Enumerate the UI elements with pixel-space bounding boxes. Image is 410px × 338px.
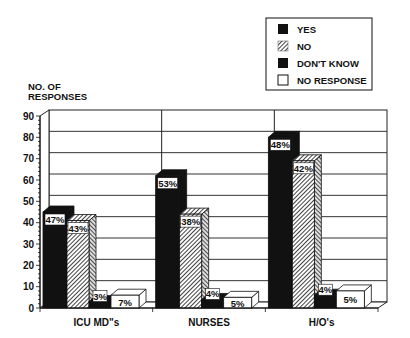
- bar-no-1: 38%: [180, 208, 209, 308]
- bar-no-0: 43%: [67, 215, 96, 308]
- legend-label-yes: YES: [297, 24, 316, 35]
- data-label: 5%: [231, 298, 245, 309]
- y-tick-label: 60: [23, 175, 35, 186]
- bar-front: [268, 137, 292, 308]
- x-axis: ICU MD"sNURSESH/O's: [40, 308, 378, 328]
- legend: YES NO DON'T KNOW NO RESPONSE: [266, 18, 372, 90]
- y-tick-label: 0: [28, 303, 34, 314]
- legend-item-yes: YES: [278, 24, 316, 35]
- category-label: H/O's: [309, 317, 335, 328]
- y-tick-label: 10: [23, 281, 35, 292]
- bar-no-2: 42%: [292, 155, 321, 308]
- legend-label-dont-know: DON'T KNOW: [297, 58, 359, 69]
- category-label: ICU MD"s: [73, 317, 119, 328]
- data-label: 42%: [294, 163, 314, 174]
- bar-front: [43, 212, 67, 308]
- data-label: 5%: [343, 294, 357, 305]
- data-label: 53%: [158, 178, 178, 189]
- bar-front: [202, 299, 224, 308]
- bar-front: [89, 302, 111, 308]
- y-tick-label: 70: [23, 153, 35, 164]
- data-label: 47%: [45, 214, 65, 225]
- legend-swatch-yes: [278, 24, 288, 34]
- legend-swatch-no-response: [278, 75, 288, 85]
- data-label: 48%: [271, 139, 291, 150]
- data-label: 43%: [68, 223, 88, 234]
- bar-no-response-2: 5%: [336, 285, 371, 308]
- back-wall: [49, 110, 387, 302]
- data-label: 4%: [318, 284, 332, 295]
- y-tick-label: 30: [23, 239, 35, 250]
- data-label: 38%: [181, 216, 201, 227]
- bar-no-response-1: 5%: [224, 291, 259, 308]
- y-tick-label: 20: [23, 260, 35, 271]
- data-label: 3%: [93, 291, 107, 302]
- legend-label-no: NO: [297, 41, 311, 52]
- category-label: NURSES: [188, 317, 230, 328]
- legend-swatch-no: [278, 41, 288, 51]
- y-axis-label-line-2: RESPONSES: [28, 91, 87, 102]
- bar-front: [292, 161, 314, 308]
- bar-chart: NO. OF RESPONSES 0102030405060708090 47%…: [0, 0, 410, 338]
- bar-front: [156, 176, 180, 308]
- legend-label-no-response: NO RESPONSE: [297, 75, 367, 86]
- legend-swatch-dont-know: [278, 58, 288, 68]
- bar-front: [314, 295, 336, 308]
- y-tick-label: 40: [23, 217, 35, 228]
- bar-no-response-0: 7%: [111, 289, 146, 308]
- y-tick-label: 80: [23, 132, 35, 143]
- y-tick-label: 90: [23, 111, 35, 122]
- y-tick-label: 50: [23, 196, 35, 207]
- bar-front: [180, 214, 202, 308]
- data-label: 7%: [118, 297, 132, 308]
- y-axis: 0102030405060708090: [23, 111, 40, 314]
- data-label: 4%: [206, 288, 220, 299]
